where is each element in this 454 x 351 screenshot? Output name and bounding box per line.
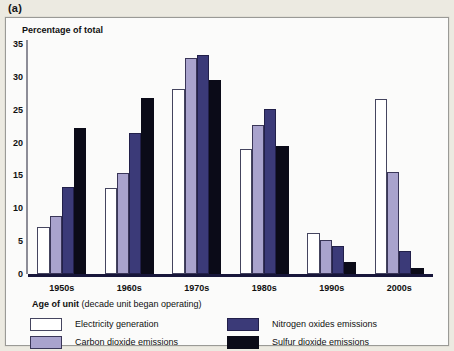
x-axis-tick-label: 1950s <box>28 283 96 293</box>
bar-group-bars <box>240 44 289 274</box>
y-axis-tick-label: 20 <box>13 138 23 148</box>
bar[interactable] <box>209 80 221 274</box>
bar[interactable] <box>185 58 197 274</box>
bar[interactable] <box>332 246 344 274</box>
legend-item[interactable]: Nitrogen oxides emissions <box>227 315 420 333</box>
bar-group: 1980s <box>231 44 299 274</box>
bar[interactable] <box>50 216 62 274</box>
bar-group: 1990s <box>298 44 366 274</box>
x-axis-title-bold: Age of unit <box>32 299 79 309</box>
bar-group: 1970s <box>163 44 231 274</box>
bar[interactable] <box>37 227 49 274</box>
plot-area: 05101520253035 1950s1960s1970s1980s1990s… <box>28 44 433 274</box>
bar[interactable] <box>240 149 252 274</box>
legend-swatch <box>227 336 259 349</box>
bar-group-bars <box>105 44 154 274</box>
legend-label: Electricity generation <box>75 319 159 329</box>
y-axis-title: Percentage of total <box>22 25 103 35</box>
legend-label: Nitrogen oxides emissions <box>272 319 377 329</box>
bar[interactable] <box>387 172 399 274</box>
bar-groups: 1950s1960s1970s1980s1990s2000s <box>28 44 433 274</box>
y-axis-tick-label: 15 <box>13 170 23 180</box>
bar-group-bars <box>37 44 86 274</box>
legend-item[interactable]: Sulfur dioxide emissions <box>227 333 420 351</box>
bar[interactable] <box>411 268 423 274</box>
bar[interactable] <box>252 125 264 274</box>
x-axis-tick-label: 1980s <box>231 283 299 293</box>
bar[interactable] <box>141 98 153 274</box>
chart-frame: Percentage of total 05101520253035 1950s… <box>5 17 449 346</box>
x-axis-title: Age of unit (decade unit began operating… <box>32 299 202 309</box>
legend-item[interactable]: Carbon dioxide emissions <box>30 333 223 351</box>
legend-swatch <box>30 318 62 331</box>
bar[interactable] <box>117 173 129 274</box>
bar[interactable] <box>320 240 332 274</box>
legend-swatch <box>227 318 259 331</box>
y-axis-tick-label: 0 <box>18 269 23 279</box>
bar-group-bars <box>172 44 221 274</box>
bar-group-bars <box>375 44 424 274</box>
legend-label: Sulfur dioxide emissions <box>272 337 369 347</box>
y-axis-tick-label: 30 <box>13 72 23 82</box>
x-axis-line <box>28 274 433 277</box>
bar[interactable] <box>62 187 74 274</box>
bar-group: 1960s <box>96 44 164 274</box>
x-axis-tick-label: 1960s <box>96 283 164 293</box>
bar[interactable] <box>264 109 276 274</box>
bar-group: 1950s <box>28 44 96 274</box>
x-axis-title-rest: (decade unit began operating) <box>79 299 202 309</box>
legend-label: Carbon dioxide emissions <box>75 337 178 347</box>
bar[interactable] <box>399 251 411 274</box>
bar-group-bars <box>307 44 356 274</box>
figure-label: (a) <box>8 2 22 14</box>
bar[interactable] <box>375 99 387 274</box>
bar[interactable] <box>74 128 86 274</box>
y-axis-tick-label: 10 <box>13 203 23 213</box>
y-axis-tick-label: 5 <box>18 236 23 246</box>
bar[interactable] <box>105 188 117 274</box>
bar[interactable] <box>276 146 288 274</box>
bar[interactable] <box>344 262 356 274</box>
bar[interactable] <box>172 89 184 274</box>
bar[interactable] <box>129 133 141 274</box>
bar-group: 2000s <box>366 44 434 274</box>
legend-swatch <box>30 336 62 349</box>
x-axis-tick-label: 1990s <box>298 283 366 293</box>
x-axis-tick-label: 1970s <box>163 283 231 293</box>
chart-legend: Electricity generationNitrogen oxides em… <box>30 315 420 351</box>
x-axis-tick-label: 2000s <box>366 283 434 293</box>
y-axis-tick-label: 35 <box>13 39 23 49</box>
y-axis-tick-label: 25 <box>13 105 23 115</box>
bar[interactable] <box>307 233 319 274</box>
bar[interactable] <box>197 55 209 274</box>
legend-item[interactable]: Electricity generation <box>30 315 223 333</box>
